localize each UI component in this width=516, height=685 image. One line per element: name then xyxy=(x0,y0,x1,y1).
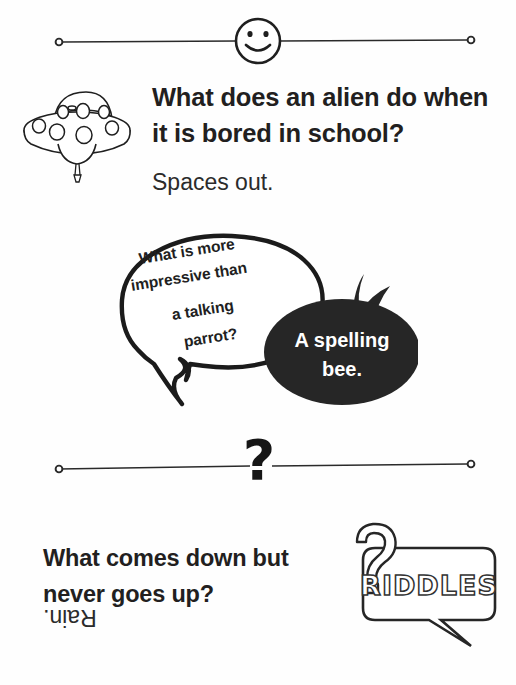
joke-answer-2-wrapper: Rain. xyxy=(43,604,243,638)
joke-answer-2: Rain. xyxy=(43,604,97,631)
divider-endpoint-right-icon xyxy=(468,461,475,468)
top-divider xyxy=(0,12,516,72)
speech-bubble-pair: What is more impressive than a talking p… xyxy=(108,228,418,428)
ufo-icon xyxy=(18,78,138,190)
divider-line-right xyxy=(280,40,467,41)
divider-line-left xyxy=(59,466,250,469)
joke-question-1: What does an alien do when it is bored i… xyxy=(152,80,504,151)
riddles-label: RIDDLES xyxy=(360,570,498,601)
question-mark-icon: ? xyxy=(243,435,275,492)
bottom-divider: ? xyxy=(0,435,516,495)
divider-endpoint-right-icon xyxy=(468,37,475,44)
divider-line-right xyxy=(272,464,467,466)
divider-line-left xyxy=(63,41,236,42)
svg-text:?: ? xyxy=(243,435,275,492)
answer-bubble-body xyxy=(264,299,418,405)
joke-answer-1: Spaces out. xyxy=(152,168,492,198)
divider-endpoint-left-icon xyxy=(56,466,63,473)
joke-question-2: What comes down but never goes up? xyxy=(43,540,343,613)
divider-endpoint-left-icon xyxy=(56,39,63,46)
riddles-speech-bubble-icon: RIDDLES xyxy=(343,520,513,650)
riddles-page: What does an alien do when it is bored i… xyxy=(0,0,516,685)
smiley-face-icon xyxy=(236,19,280,63)
